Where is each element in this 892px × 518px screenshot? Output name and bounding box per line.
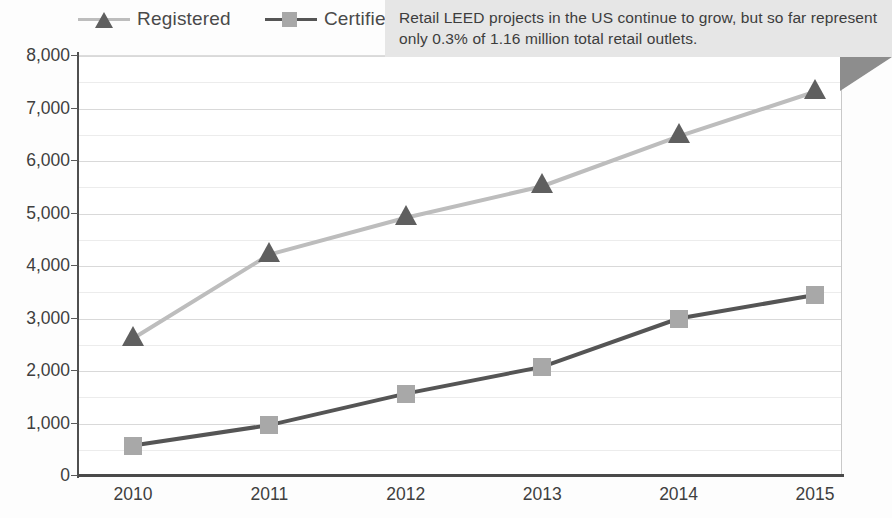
data-point-certified-2014[interactable]: [670, 310, 688, 328]
x-axis-tick-label: 2012: [361, 484, 451, 505]
data-point-registered-2010[interactable]: [122, 326, 144, 346]
y-axis-tick: [71, 55, 78, 56]
gridline-major: [78, 161, 841, 162]
data-point-certified-2012[interactable]: [397, 385, 415, 403]
y-axis-tick-label: 8,000: [2, 45, 70, 66]
gridline-minor: [78, 450, 841, 451]
gridline-minor: [78, 240, 841, 241]
gridline-major: [78, 371, 841, 372]
data-point-registered-2012[interactable]: [395, 205, 417, 225]
gridline-major: [78, 109, 841, 110]
data-point-certified-2011[interactable]: [260, 416, 278, 434]
data-point-certified-2013[interactable]: [533, 358, 551, 376]
y-axis-tick-label: 1,000: [2, 412, 70, 433]
x-axis-line: [78, 474, 844, 477]
data-point-certified-2010[interactable]: [124, 437, 142, 455]
y-axis-tick-label: 2,000: [2, 360, 70, 381]
legend-label-registered: Registered: [137, 8, 231, 30]
y-axis-tick: [71, 318, 78, 319]
gridline-minor: [78, 292, 841, 293]
y-axis-tick-label: 4,000: [2, 255, 70, 276]
chart-legend: Registered Certified: [78, 4, 396, 34]
gridline-minor: [78, 397, 841, 398]
annotation-text: Retail LEED projects in the US continue …: [399, 7, 882, 49]
y-axis-labels: 01,0002,0003,0004,0005,0006,0007,0008,00…: [0, 0, 70, 518]
gridline-major: [78, 266, 841, 267]
y-axis-tick-label: 6,000: [2, 150, 70, 171]
retail-leed-projects-chart: Registered Certified Retail LEED project…: [0, 0, 892, 518]
gridline-major: [78, 424, 841, 425]
data-point-certified-2015[interactable]: [806, 286, 824, 304]
y-axis-tick-label: 5,000: [2, 202, 70, 223]
x-axis-tick-label: 2010: [88, 484, 178, 505]
plot-area: [78, 55, 842, 475]
y-axis-tick: [71, 108, 78, 109]
gridline-minor: [78, 345, 841, 346]
y-axis-tick-label: 3,000: [2, 307, 70, 328]
gridline-minor: [78, 135, 841, 136]
y-axis-tick-label: 7,000: [2, 97, 70, 118]
annotation-callout: Retail LEED projects in the US continue …: [385, 0, 892, 57]
y-axis-tick: [71, 265, 78, 266]
legend-item-certified[interactable]: Certified: [265, 8, 397, 30]
callout-fold-icon: [840, 57, 892, 91]
data-point-registered-2014[interactable]: [668, 123, 690, 143]
x-axis-tick-label: 2013: [497, 484, 587, 505]
gridline-minor: [78, 82, 841, 83]
x-axis-tick-label: 2015: [770, 484, 860, 505]
y-axis-tick: [71, 370, 78, 371]
data-point-registered-2015[interactable]: [804, 79, 826, 99]
gridline-major: [78, 319, 841, 320]
gridline-minor: [78, 187, 841, 188]
y-axis-tick: [71, 213, 78, 214]
y-axis-tick: [71, 423, 78, 424]
x-axis-tick-label: 2014: [634, 484, 724, 505]
square-marker-icon: [265, 9, 317, 29]
triangle-marker-icon: [78, 9, 130, 29]
gridline-major: [78, 214, 841, 215]
x-axis-tick-label: 2011: [224, 484, 314, 505]
y-axis-tick: [71, 475, 78, 476]
legend-item-registered[interactable]: Registered: [78, 8, 231, 30]
data-point-registered-2011[interactable]: [258, 242, 280, 262]
y-axis-tick: [71, 160, 78, 161]
y-axis-tick-label: 0: [2, 465, 70, 486]
data-point-registered-2013[interactable]: [531, 173, 553, 193]
